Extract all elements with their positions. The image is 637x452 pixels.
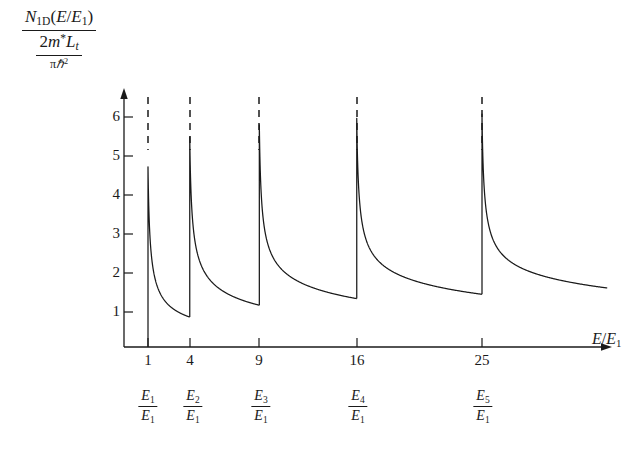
y-axis-numerator: N1D(E/E1) <box>22 8 96 30</box>
y-tick-label-2: 2 <box>100 264 120 281</box>
x-tick-label-25: 25 <box>469 352 495 369</box>
y-tick-label-3: 3 <box>100 225 120 242</box>
y-axis-label: N1D(E/E1) 2m*Lt πℏ2 <box>22 8 96 71</box>
dos-segment-4 <box>357 118 482 298</box>
x-axis-label: E/E1 <box>592 330 621 349</box>
x-tick-label-16: 16 <box>344 352 370 369</box>
y-tick-label-5: 5 <box>100 147 120 164</box>
y-tick-label-1: 1 <box>100 303 120 320</box>
x-tick-label-1: 1 <box>138 352 158 369</box>
dos-segment-2 <box>190 137 260 317</box>
subband-label-4: E4 E1 <box>348 388 367 425</box>
x-tick-marks <box>148 338 482 347</box>
dos-curves <box>148 114 607 347</box>
subband-label-3: E3 E1 <box>251 388 270 425</box>
x-tick-label-4: 4 <box>180 352 200 369</box>
x-axis <box>124 343 612 350</box>
dos-segment-1 <box>148 167 190 347</box>
y-tick-label-4: 4 <box>100 186 120 203</box>
y-axis <box>120 88 127 347</box>
dashed-guide-lines <box>148 97 482 150</box>
subband-label-2: E2 E1 <box>183 388 202 425</box>
subband-label-5: E5 E1 <box>473 388 492 425</box>
dos-segment-5 <box>482 114 607 294</box>
dos-segment-3 <box>259 125 356 305</box>
figure-1d-density-of-states: N1D(E/E1) 2m*Lt πℏ2 E/E1 6 5 4 3 2 1 1 4… <box>0 0 637 452</box>
x-tick-label-9: 9 <box>249 352 269 369</box>
y-tick-marks <box>124 117 133 312</box>
y-tick-label-6: 6 <box>100 108 120 125</box>
y-axis-denominator: 2m*Lt πℏ2 <box>22 30 96 71</box>
subband-label-1: E1 E1 <box>138 388 157 425</box>
